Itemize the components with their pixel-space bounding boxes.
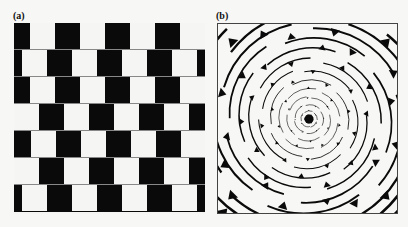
cafe-wall-light-tile — [80, 77, 105, 103]
cafe-wall-light-tile — [30, 77, 55, 103]
cafe-wall-row — [14, 158, 205, 185]
spiral-arc — [277, 209, 398, 214]
spiral-arc — [324, 115, 330, 136]
spiral-arc — [279, 103, 283, 133]
mortar-line — [14, 103, 205, 104]
spiral-arc — [287, 115, 295, 135]
spiral-triangle — [307, 87, 310, 89]
spiral-arc — [322, 93, 340, 117]
spiral-triangle — [278, 202, 287, 210]
cafe-wall-light-tile — [131, 131, 156, 157]
spiral-arc — [298, 137, 319, 141]
cafe-wall-light-tile — [64, 158, 89, 184]
spiral-triangle — [271, 83, 276, 88]
cafe-wall-light-tile — [122, 185, 147, 211]
spiral-arc — [218, 106, 253, 190]
cafe-wall-light-tile — [172, 50, 197, 76]
spiral-arc — [311, 98, 329, 110]
spiral-arc — [230, 47, 267, 119]
spiral-triangle — [309, 141, 311, 143]
spiral-arc — [290, 97, 307, 111]
spiral-arc — [323, 63, 367, 101]
cafe-wall-row — [14, 50, 205, 77]
cafe-wall-light-tile — [22, 185, 47, 211]
cafe-wall-light-tile — [14, 104, 39, 130]
spiral-triangle — [284, 100, 287, 103]
cafe-wall-light-tile — [181, 131, 205, 157]
spiral-arc — [379, 95, 398, 186]
spiral-arc — [374, 73, 392, 153]
spiral-triangle — [228, 190, 238, 200]
spiral-triangle — [288, 33, 296, 40]
cafe-wall-light-tile — [80, 23, 105, 49]
spiral-triangle — [363, 111, 368, 117]
cafe-wall-row — [14, 185, 205, 212]
spiral-graphic — [218, 24, 398, 214]
mortar-line — [14, 157, 205, 158]
cafe-wall-light-tile — [180, 23, 205, 49]
spiral-arc — [293, 80, 332, 86]
spiral-triangle — [308, 110, 309, 111]
spiral-arc — [263, 71, 293, 109]
spiral-illusion — [217, 23, 398, 214]
spiral-arc — [337, 93, 349, 130]
spiral-arc — [335, 24, 398, 67]
cafe-wall-row — [14, 104, 205, 131]
cafe-wall-light-tile — [31, 131, 56, 157]
spiral-arc — [311, 137, 343, 159]
spiral-triangle — [301, 123, 302, 124]
spiral-arc — [301, 113, 303, 121]
spiral-arc — [271, 88, 284, 125]
spiral-triangle — [389, 70, 398, 79]
spiral-arc — [218, 69, 221, 173]
cafe-wall-light-tile — [180, 77, 205, 103]
cafe-wall-row — [14, 23, 205, 50]
spiral-triangle — [260, 63, 266, 70]
cafe-wall-light-tile — [114, 158, 139, 184]
cafe-wall-light-tile — [64, 104, 89, 130]
spiral-arc — [344, 115, 367, 169]
spiral-triangle — [311, 70, 316, 74]
spiral-arc — [321, 112, 324, 126]
cafe-wall-light-tile — [72, 50, 97, 76]
spiral-arc — [314, 113, 317, 120]
spiral-arc — [350, 100, 358, 148]
spiral-triangle — [324, 182, 331, 188]
spiral-triangle — [306, 97, 308, 99]
spiral-triangle — [261, 182, 268, 190]
spiral-arc — [306, 105, 320, 109]
spiral-triangle — [306, 158, 310, 161]
spiral-arc — [305, 111, 313, 113]
cafe-wall-light-tile — [130, 23, 155, 49]
cafe-wall-light-tile — [14, 158, 39, 184]
panel-b-label: (b) — [216, 11, 228, 21]
mortar-line — [14, 184, 205, 185]
spiral-triangle — [249, 95, 254, 101]
spiral-triangle — [372, 160, 380, 167]
spiral-center-dot — [305, 115, 314, 124]
spiral-triangle — [309, 126, 310, 127]
spiral-triangle — [223, 132, 230, 140]
spiral-triangle — [295, 119, 296, 121]
spiral-arc — [295, 121, 304, 132]
spiral-triangle — [260, 30, 269, 39]
spiral-triangle — [218, 88, 226, 97]
cafe-wall-light-tile — [72, 185, 97, 211]
spiral-arc — [268, 195, 360, 214]
spiral-triangle — [298, 173, 304, 178]
spiral-triangle — [264, 173, 270, 180]
spiral-triangle — [239, 118, 245, 125]
cafe-wall-light-tile — [130, 77, 155, 103]
spiral-arc — [286, 139, 314, 148]
spiral-arc — [260, 58, 310, 88]
spiral-triangle — [260, 123, 264, 128]
cafe-wall-row — [14, 131, 205, 158]
spiral-arc — [307, 128, 320, 134]
spiral-triangle — [392, 141, 398, 150]
mortar-line — [14, 76, 205, 77]
cafe-wall-light-tile — [114, 104, 139, 130]
spiral-arc — [302, 123, 309, 127]
spiral-triangle — [347, 110, 350, 114]
cafe-wall-light-tile — [22, 50, 47, 76]
spiral-arc — [301, 166, 373, 203]
